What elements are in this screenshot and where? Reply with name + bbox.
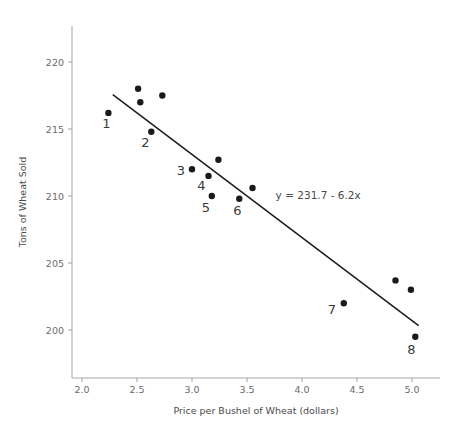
data-point (135, 86, 141, 92)
data-point (236, 195, 242, 201)
x-tick-label: 4.0 (294, 384, 309, 395)
data-point (412, 334, 418, 340)
data-point (215, 157, 221, 163)
plot-canvas: 2.02.53.03.54.04.55.0 200205210215220 12… (0, 0, 459, 436)
data-point-label: 3 (177, 163, 185, 178)
data-point-label: 7 (328, 302, 336, 317)
data-point-label: 2 (141, 135, 149, 150)
data-point-label: 1 (102, 116, 110, 131)
data-point (209, 193, 215, 199)
x-axis-title: Price per Bushel of Wheat (dollars) (173, 405, 338, 416)
data-point (189, 166, 195, 172)
data-point (137, 99, 143, 105)
data-point (249, 185, 255, 191)
y-axis-title: Tons of Wheat Sold (17, 157, 28, 249)
data-point-label: 4 (197, 178, 205, 193)
data-point-label: 6 (233, 203, 241, 218)
x-tick-label: 3.5 (239, 384, 254, 395)
x-tick-label: 2.0 (74, 384, 89, 395)
data-point-label: 5 (202, 200, 210, 215)
y-tick-label: 200 (46, 325, 64, 336)
x-tick-label: 3.0 (184, 384, 199, 395)
regression-equation-annotation: y = 231.7 - 6.2x (276, 189, 361, 201)
data-point (408, 287, 414, 293)
x-tick-label: 5.0 (404, 384, 419, 395)
data-point-label: 8 (407, 342, 415, 357)
data-point (159, 92, 165, 98)
x-tick-label: 4.5 (349, 384, 364, 395)
data-point (392, 277, 398, 283)
x-tick-label: 2.5 (129, 384, 144, 395)
y-tick-label: 205 (46, 258, 64, 269)
y-tick-label: 210 (46, 191, 64, 202)
data-point (341, 300, 347, 306)
y-tick-label: 215 (46, 124, 64, 135)
y-tick-label: 220 (46, 57, 64, 68)
data-point (205, 173, 211, 179)
scatter-chart-figure: 2.02.53.03.54.04.55.0 200205210215220 12… (0, 0, 459, 436)
figure-background (0, 0, 459, 436)
